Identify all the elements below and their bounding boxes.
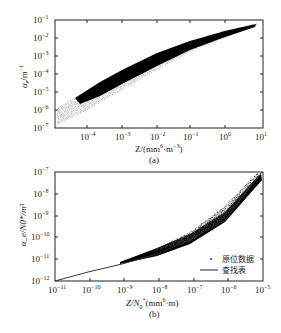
x-tick-label: 10−11 [48, 284, 66, 295]
y-axis-label-a: αe/m−1 [18, 56, 31, 96]
x-axis-label-b: Z/N0*(mm6·m) [126, 297, 179, 310]
y-tick-label: 10−2 [33, 32, 48, 43]
legend-label-line: 查找表 [222, 264, 246, 275]
y-tick-label: 10−1 [33, 14, 48, 25]
y-tick-label: 10−3 [33, 50, 48, 61]
x-tick-label: 10−6 [221, 284, 236, 295]
plot-frame-a [55, 20, 263, 128]
x-tick-label: 10−1 [183, 131, 198, 142]
panel-label-b: (b) [149, 309, 160, 319]
x-tick-label: 10−3 [115, 131, 130, 142]
y-tick-label: 10−12 [31, 275, 49, 286]
legend-label-points: 原位数据 [222, 253, 254, 264]
scatter-cloud-a [57, 23, 257, 125]
y-tick-label: 10−11 [31, 253, 49, 264]
x-tick-label: 10−9 [117, 284, 132, 295]
x-tick-label: 10−10 [82, 284, 100, 295]
x-axis-label-a: Z/(mm6·m−3) [135, 143, 182, 154]
panel-label-a: (a) [149, 155, 159, 165]
x-tick-label: 10−7 [187, 284, 202, 295]
y-tick-label: 10−9 [33, 210, 48, 221]
y-tick-label: 10−6 [33, 104, 48, 115]
x-tick-label: 10−4 [80, 131, 95, 142]
scatter-cloud-b [120, 172, 262, 264]
x-tick-label: 101 [255, 131, 267, 142]
y-tick-label: 10−4 [33, 68, 48, 79]
y-tick-label: 10−8 [33, 188, 48, 199]
y-tick-label: 10−7 [33, 166, 48, 177]
x-tick-label: 10−5 [255, 284, 270, 295]
panel-a [55, 20, 263, 128]
y-tick-label: 10−10 [31, 231, 49, 242]
x-tick-label: 10−2 [150, 131, 165, 142]
y-tick-label: 10−5 [33, 86, 48, 97]
y-axis-label-b: α_e/N0*/m³ [18, 190, 28, 260]
legend-marker-points [210, 258, 212, 260]
x-ticks-a [87, 20, 225, 128]
x-tick-label: 10−8 [152, 284, 167, 295]
x-tick-label: 100 [219, 131, 231, 142]
y-tick-label: 10−7 [33, 122, 48, 133]
